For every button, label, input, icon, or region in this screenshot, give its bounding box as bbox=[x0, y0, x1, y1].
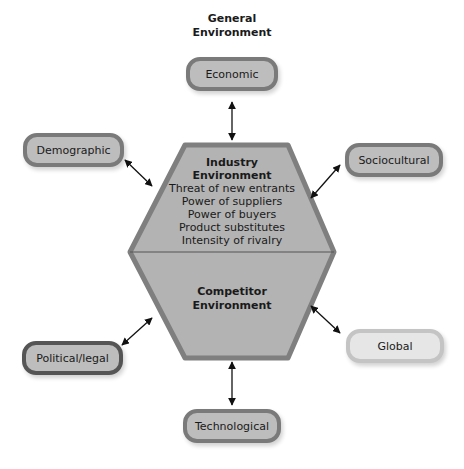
industry-item: Threat of new entrants bbox=[160, 182, 304, 195]
arrow-political bbox=[122, 318, 152, 345]
arrow-demographic bbox=[125, 160, 152, 186]
node-demographic: Demographic bbox=[23, 133, 124, 167]
node-political-legal: Political/legal bbox=[22, 341, 123, 375]
arrow-global bbox=[311, 306, 340, 333]
industry-item: Intensity of rivalry bbox=[160, 234, 304, 247]
industry-item: Power of buyers bbox=[160, 208, 304, 221]
industry-item: Power of suppliers bbox=[160, 195, 304, 208]
industry-head-2: Environment bbox=[160, 169, 304, 182]
industry-environment: Industry Environment Threat of new entra… bbox=[160, 156, 304, 247]
competitor-line-2: Environment bbox=[170, 299, 294, 313]
competitor-line-1: Competitor bbox=[170, 285, 294, 299]
arrow-sociocultural bbox=[311, 165, 340, 198]
node-sociocultural: Sociocultural bbox=[345, 143, 443, 177]
industry-item: Product substitutes bbox=[160, 221, 304, 234]
node-technological: Technological bbox=[183, 409, 281, 443]
node-global: Global bbox=[346, 329, 444, 363]
node-economic: Economic bbox=[186, 57, 278, 91]
competitor-environment: Competitor Environment bbox=[170, 285, 294, 313]
industry-head-1: Industry bbox=[160, 156, 304, 169]
